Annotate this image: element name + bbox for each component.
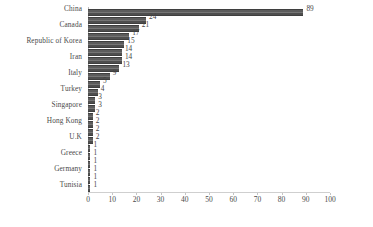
x-tick-label: 20: [133, 195, 141, 204]
category-label: Singapore: [52, 101, 83, 109]
bar-row: 5: [0, 79, 373, 87]
x-axis-ticks: 0102030405060708090100: [0, 193, 373, 213]
bar-chart: China8924Canada2117Republic of Korea1514…: [0, 0, 373, 227]
x-tick-label: 0: [86, 195, 90, 204]
bar-container: [88, 57, 122, 62]
x-tick-label: 50: [205, 195, 213, 204]
bar-row: 14: [0, 47, 373, 55]
bar-row: Greece1: [0, 151, 373, 159]
bar-row: U.K2: [0, 135, 373, 143]
bar-container: [88, 41, 124, 46]
bar-row: Iran14: [0, 55, 373, 63]
bar-container: [88, 97, 95, 102]
bar-row: Italy9: [0, 71, 373, 79]
bar-value-label: 89: [303, 5, 313, 13]
bar-row: Tunisia1: [0, 183, 373, 191]
x-tick-label: 100: [324, 195, 335, 204]
bar-rows: China8924Canada2117Republic of Korea1514…: [0, 7, 373, 191]
x-tick-label: 40: [181, 195, 189, 204]
bar-row: Turkey4: [0, 87, 373, 95]
category-label: Germany: [54, 165, 82, 173]
bar-row: Hong Kong2: [0, 119, 373, 127]
bar-container: [88, 33, 129, 38]
category-label: Canada: [60, 21, 82, 29]
bar-row: Canada21: [0, 23, 373, 31]
category-label: Italy: [68, 69, 82, 77]
category-label: Turkey: [61, 85, 82, 93]
x-tick-label: 90: [302, 195, 310, 204]
bar-row: Germany1: [0, 167, 373, 175]
plot-area: China8924Canada2117Republic of Korea1514…: [0, 0, 373, 227]
bar-row: 24: [0, 15, 373, 23]
bar-container: [88, 49, 122, 54]
bar-value-label: 1: [90, 181, 97, 189]
bar-row: China89: [0, 7, 373, 15]
x-tick-label: 10: [108, 195, 116, 204]
category-label: U.K: [69, 133, 82, 141]
bar-value-label: 9: [110, 69, 117, 77]
x-tick-label: 80: [278, 195, 286, 204]
category-label: Greece: [61, 149, 82, 157]
category-label: Iran: [70, 53, 82, 61]
bar-value-label: 13: [119, 61, 129, 69]
bar-row: 1: [0, 175, 373, 183]
bar-row: 1: [0, 143, 373, 151]
category-label: Hong Kong: [47, 117, 82, 125]
category-label: Tunisia: [60, 181, 82, 189]
bar-container: [88, 9, 303, 14]
bar-container: [88, 17, 146, 22]
bar-row: Republic of Korea15: [0, 39, 373, 47]
category-label: China: [64, 5, 82, 13]
bar-row: 2: [0, 127, 373, 135]
bar-value-label: 21: [139, 21, 149, 29]
category-label: Republic of Korea: [26, 37, 82, 45]
bar-row: 13: [0, 63, 373, 71]
x-tick-label: 30: [157, 195, 165, 204]
x-tick-label: 70: [254, 195, 262, 204]
bar-row: Singapore3: [0, 103, 373, 111]
x-tick-label: 60: [229, 195, 237, 204]
